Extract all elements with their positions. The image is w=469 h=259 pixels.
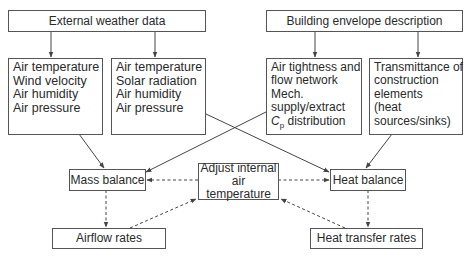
- list-item: Air pressure: [116, 102, 201, 116]
- weather-inputs-mass-box: Air temperature Wind velocity Air humidi…: [8, 58, 103, 135]
- list-item: Mech.: [271, 88, 357, 101]
- list-item: Wind velocity: [13, 75, 98, 89]
- envelope-thermal-inputs-box: Transmittance of construction elements (…: [369, 58, 463, 135]
- airflow-rates-box: Airflow rates: [52, 228, 166, 249]
- list-item-cp-distribution: Cp distribution: [271, 115, 357, 133]
- adjust-temp-label-line2: air temperature: [199, 175, 278, 201]
- heat-balance-label: Heat balance: [333, 174, 404, 187]
- list-item: sources/sinks): [374, 115, 458, 128]
- mass-balance-label: Mass balance: [70, 174, 144, 187]
- arrow-box1-to-mass: [79, 134, 104, 168]
- list-item: Air tightness and: [271, 61, 357, 74]
- building-envelope-description-label: Building envelope description: [286, 14, 442, 28]
- list-item: Air pressure: [13, 102, 98, 116]
- dashed-transfer-to-adjust: [281, 199, 345, 228]
- cp-symbol: C: [271, 114, 280, 128]
- adjust-internal-air-temperature-box: Adjust internal air temperature: [198, 163, 279, 200]
- weather-inputs-heat-box: Air temperature Solar radiation Air humi…: [111, 58, 206, 135]
- envelope-airflow-inputs-box: Air tightness and flow network Mech. sup…: [266, 58, 362, 135]
- external-weather-data-box: External weather data: [8, 10, 206, 32]
- cp-suffix: distribution: [284, 114, 345, 128]
- list-item: elements: [374, 88, 458, 101]
- airflow-rates-label: Airflow rates: [76, 232, 142, 245]
- arrow-box4-to-heat: [366, 134, 392, 168]
- heat-transfer-rates-box: Heat transfer rates: [310, 228, 423, 249]
- external-weather-data-label: External weather data: [49, 14, 166, 28]
- heat-transfer-rates-label: Heat transfer rates: [317, 232, 416, 245]
- heat-balance-box: Heat balance: [330, 169, 406, 191]
- list-item: Transmittance of: [374, 61, 458, 74]
- building-envelope-description-box: Building envelope description: [266, 10, 463, 32]
- list-item: construction: [374, 74, 458, 87]
- mass-balance-box: Mass balance: [69, 169, 146, 191]
- list-item: Air humidity: [13, 88, 98, 102]
- list-item: (heat: [374, 101, 458, 114]
- list-item: Solar radiation: [116, 75, 201, 89]
- list-item: flow network: [271, 74, 357, 87]
- list-item: Air temperature: [13, 61, 98, 75]
- list-item: Air humidity: [116, 88, 201, 102]
- list-item: Air temperature: [116, 61, 201, 75]
- dashed-airflow-to-adjust: [130, 199, 196, 228]
- list-item: supply/extract: [271, 101, 357, 114]
